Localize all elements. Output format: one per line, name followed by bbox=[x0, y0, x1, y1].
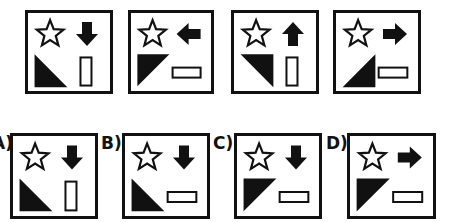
rectangle-horizontal-shape bbox=[280, 192, 309, 202]
rectangle-horizontal-shape bbox=[173, 68, 201, 78]
star-icon bbox=[246, 144, 273, 169]
option-label-b[interactable]: B) bbox=[101, 135, 122, 152]
option-d-figure[interactable] bbox=[347, 133, 436, 219]
option-a-figure[interactable] bbox=[10, 133, 98, 219]
star-icon bbox=[22, 144, 49, 169]
option-label-a[interactable]: A) bbox=[0, 135, 13, 152]
star-icon bbox=[243, 20, 270, 45]
triangle-bottom-left-shape bbox=[35, 54, 68, 87]
arrow-right-icon bbox=[383, 23, 407, 45]
arrow-down-icon bbox=[61, 146, 83, 170]
rectangle-vertical-shape bbox=[65, 182, 76, 211]
star-icon bbox=[139, 20, 166, 45]
option-b-figure[interactable] bbox=[122, 133, 210, 219]
option-label-d[interactable]: D) bbox=[326, 135, 348, 152]
triangle-top-left-shape bbox=[244, 178, 277, 211]
sequence-figure-1 bbox=[25, 10, 113, 94]
sequence-figure-3 bbox=[231, 10, 319, 94]
triangle-bottom-left-shape bbox=[132, 178, 165, 211]
triangle-bottom-left-shape bbox=[20, 178, 53, 211]
triangle-bottom-right-shape bbox=[343, 54, 376, 87]
arrow-down-icon bbox=[173, 146, 195, 170]
star-icon bbox=[345, 20, 372, 45]
triangle-top-right-shape bbox=[241, 54, 274, 87]
star-icon bbox=[359, 144, 386, 169]
star-icon bbox=[134, 144, 161, 169]
rectangle-horizontal-shape bbox=[168, 192, 197, 202]
rectangle-vertical-shape bbox=[80, 57, 91, 85]
triangle-top-left-shape bbox=[357, 178, 390, 211]
star-icon bbox=[37, 20, 64, 45]
arrow-down-icon bbox=[285, 146, 307, 170]
rectangle-horizontal-shape bbox=[379, 68, 408, 78]
arrow-left-icon bbox=[177, 23, 201, 45]
sequence-figure-4 bbox=[333, 10, 421, 94]
rectangle-vertical-shape bbox=[286, 57, 297, 85]
arrow-down-icon bbox=[76, 22, 98, 46]
triangle-top-left-shape bbox=[137, 54, 169, 86]
option-c-figure[interactable] bbox=[234, 133, 322, 219]
arrow-right-icon bbox=[398, 147, 422, 169]
sequence-figure-2 bbox=[128, 10, 214, 94]
rectangle-horizontal-shape bbox=[393, 192, 422, 202]
option-label-c[interactable]: C) bbox=[213, 135, 233, 152]
arrow-up-icon bbox=[282, 22, 304, 46]
